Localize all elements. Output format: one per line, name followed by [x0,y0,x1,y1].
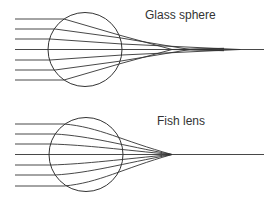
glass-sphere-diagram [15,13,264,87]
light-ray [15,144,172,155]
fish-lens-label: Fish lens [157,115,205,127]
glass-sphere-label: Glass sphere [145,9,216,21]
lens-diagram [0,0,275,200]
fish-lens-diagram [15,118,264,192]
light-ray [15,155,172,166]
